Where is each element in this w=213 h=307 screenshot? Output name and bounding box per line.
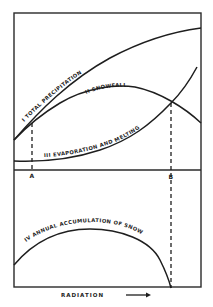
curve-annual-accumulation: [14, 229, 171, 288]
curve-snowfall: [14, 86, 201, 140]
point-label-a: A: [30, 172, 35, 179]
curve-evaporation-melting: [14, 67, 197, 161]
x-axis-label: RADIATION: [61, 292, 104, 298]
label-snowfall: II SNOWFALL: [84, 82, 127, 95]
snow-accumulation-diagram: I TOTAL PRECIPITATION II SNOWFALL III EV…: [0, 0, 213, 307]
point-label-b: B: [169, 173, 174, 180]
diagram-frame: [14, 13, 201, 287]
arrow-right-icon: [126, 293, 151, 298]
